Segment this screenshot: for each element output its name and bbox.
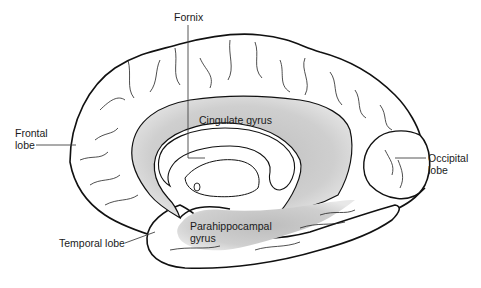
mammillary-body <box>194 183 200 191</box>
label-temporal-lobe: Temporal lobe <box>59 237 125 249</box>
label-occipital-lobe: Occipital lobe <box>428 152 468 176</box>
label-fornix: Fornix <box>174 11 203 23</box>
label-cingulate-gyrus: Cingulate gyrus <box>199 114 272 126</box>
label-parahippocampal-gyrus: Parahippocampal gyrus <box>190 220 272 244</box>
label-frontal-lobe: Frontal lobe <box>15 127 48 151</box>
